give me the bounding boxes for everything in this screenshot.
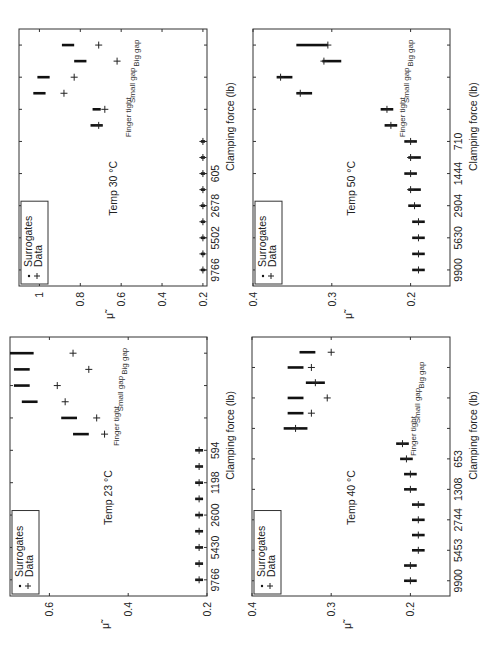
y-axis-title: μ̃ xyxy=(341,619,353,629)
y-tick-label: 0.8 xyxy=(74,292,86,307)
panel-title: Temp 30 °C xyxy=(107,160,119,215)
y-tick-label: 0.4 xyxy=(247,292,259,307)
y-tick-label: 0.3 xyxy=(325,602,337,617)
panel-23c: 0.20.40.69766543026001198594Clamping for… xyxy=(10,337,236,629)
legend-label-data: Data xyxy=(32,245,44,267)
x-axis-title: Clamping force (lb) xyxy=(467,82,479,171)
legend-dot-icon xyxy=(262,275,264,277)
x-tick-label: 9900 xyxy=(452,258,464,282)
panel-title: Temp 50 °C xyxy=(345,160,357,215)
x-tick-label: 605 xyxy=(209,165,221,183)
y-tick-label: 0.4 xyxy=(122,602,134,617)
y-tick-label: 0.4 xyxy=(246,602,258,617)
panel-30c: 0.20.40.60.81976655022678605Clamping for… xyxy=(19,29,236,319)
panel-50c: 0.20.30.49900563029041444710Clamping for… xyxy=(247,29,479,319)
x-tick-label: 5453 xyxy=(452,538,464,562)
x-tick-label: 710 xyxy=(452,133,464,151)
x-tick-label: 9766 xyxy=(209,258,221,282)
x-tick-label: 2744 xyxy=(452,508,464,532)
condition-annotation: Small gap xyxy=(413,387,422,423)
x-tick-label: 5430 xyxy=(209,536,221,560)
y-tick-label: 0.6 xyxy=(43,602,55,617)
x-tick-label: 2600 xyxy=(209,503,221,527)
y-tick-label: 0.6 xyxy=(115,292,127,307)
x-tick-label: 1308 xyxy=(452,478,464,502)
y-tick-label: 1 xyxy=(33,292,45,298)
y-tick-label: 0.2 xyxy=(404,602,416,617)
x-tick-label: 653 xyxy=(452,450,464,468)
x-tick-label: 5630 xyxy=(452,226,464,250)
y-axis-title: μ̃ xyxy=(99,619,111,629)
x-tick-label: 1444 xyxy=(452,162,464,186)
x-tick-label: 1198 xyxy=(209,471,221,494)
condition-annotation: Big gap xyxy=(406,39,415,67)
y-tick-label: 0.3 xyxy=(326,292,338,307)
y-tick-label: 0.2 xyxy=(405,292,417,307)
legend-dot-icon xyxy=(261,585,263,587)
figure-canvas: 0.20.40.60.81976655022678605Clamping for… xyxy=(0,0,485,660)
legend-label-data: Data xyxy=(265,555,277,577)
y-axis-title: μ̃ xyxy=(103,309,115,319)
legend-dot-icon xyxy=(28,275,30,277)
condition-annotation: Big gap xyxy=(132,39,141,67)
x-axis-title: Clamping force (lb) xyxy=(467,391,479,480)
panel-title: Temp 40 °C xyxy=(345,470,357,525)
condition-annotation: Small gap xyxy=(116,375,125,411)
x-tick-label: 2678 xyxy=(209,194,221,218)
panels: 0.20.40.60.81976655022678605Clamping for… xyxy=(10,29,479,629)
legend-dot-icon xyxy=(19,585,21,587)
x-axis-title: Clamping force (lb) xyxy=(224,391,236,480)
y-axis-title: μ̃ xyxy=(342,309,354,319)
x-tick-label: 9766 xyxy=(209,568,221,592)
panel-40c: 0.20.30.49900545327441308653Clamping for… xyxy=(246,337,479,629)
condition-annotation: Small gap xyxy=(128,67,137,103)
x-axis-title: Clamping force (lb) xyxy=(224,82,236,171)
x-tick-label: 5502 xyxy=(209,226,221,250)
y-tick-label: 0.2 xyxy=(197,292,209,307)
x-tick-label: 9900 xyxy=(452,569,464,593)
condition-annotation: Big gap xyxy=(417,361,426,389)
legend-label-data: Data xyxy=(23,555,35,577)
condition-annotation: Big gap xyxy=(120,347,129,375)
condition-annotation: Small gap xyxy=(402,67,411,103)
y-tick-label: 0.4 xyxy=(156,292,168,307)
x-tick-label: 594 xyxy=(209,441,221,459)
y-tick-label: 0.2 xyxy=(201,602,213,617)
legend-label-data: Data xyxy=(266,245,278,267)
panel-title: Temp 23 °C xyxy=(102,470,114,525)
plot-frame xyxy=(10,337,207,596)
x-tick-label: 2904 xyxy=(452,194,464,218)
